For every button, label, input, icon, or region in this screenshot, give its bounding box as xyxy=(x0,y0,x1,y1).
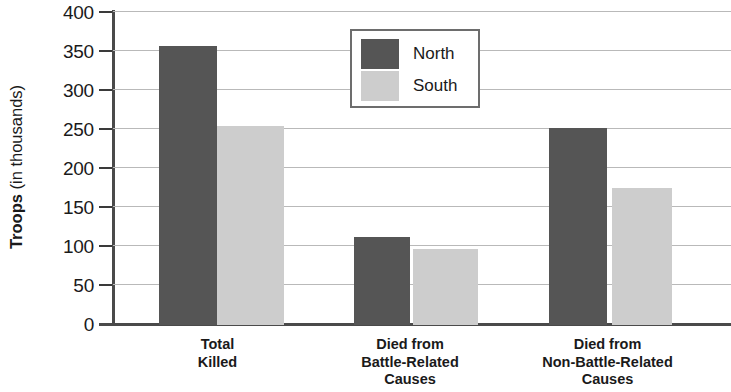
legend-label-north: North xyxy=(413,43,455,65)
legend: North South xyxy=(350,29,480,108)
y-tick-label: 250 xyxy=(38,120,94,139)
y-axis-tick-labels: 400 350 300 250 200 150 100 50 0 xyxy=(36,0,94,392)
bar-north-total-killed xyxy=(159,46,217,325)
y-tick-mark xyxy=(99,128,113,130)
y-tick-mark xyxy=(99,89,113,91)
y-tick-mark xyxy=(99,206,113,208)
bar-south-non-battle-related xyxy=(612,188,672,325)
legend-swatch-north-icon xyxy=(361,39,399,69)
bar-south-total-killed xyxy=(217,126,284,325)
y-tick-mark xyxy=(99,284,113,286)
y-tick-label: 150 xyxy=(38,198,94,217)
y-tick-mark xyxy=(99,11,113,13)
y-tick-label: 50 xyxy=(38,276,94,295)
legend-label-south: South xyxy=(413,75,457,97)
y-tick-label: 0 xyxy=(38,315,94,334)
y-axis-title-light: (in thousands) xyxy=(7,85,25,194)
y-tick-label: 350 xyxy=(38,42,94,61)
bar-north-battle-related xyxy=(354,237,410,325)
bar-chart: Troops (in thousands) 400 350 300 250 20… xyxy=(0,0,731,392)
gridline xyxy=(113,11,731,12)
y-axis-title: Troops (in thousands) xyxy=(4,37,28,297)
category-label-battle-related: Died from Battle-Related Causes xyxy=(330,336,490,389)
y-tick-mark xyxy=(99,245,113,247)
y-tick-mark xyxy=(99,50,113,52)
bar-north-non-battle-related xyxy=(549,128,607,325)
y-tick-label: 300 xyxy=(38,81,94,100)
y-axis-title-bold: Troops xyxy=(7,194,25,249)
bar-south-battle-related xyxy=(413,249,478,325)
category-label-non-battle-related: Died from Non-Battle-Related Causes xyxy=(500,336,715,389)
category-label-total-killed: Total Killed xyxy=(150,336,285,371)
y-tick-label: 200 xyxy=(38,159,94,178)
legend-swatch-south-icon xyxy=(361,71,399,101)
y-tick-mark xyxy=(99,167,113,169)
y-tick-label: 100 xyxy=(38,237,94,256)
y-tick-label: 400 xyxy=(38,3,94,22)
